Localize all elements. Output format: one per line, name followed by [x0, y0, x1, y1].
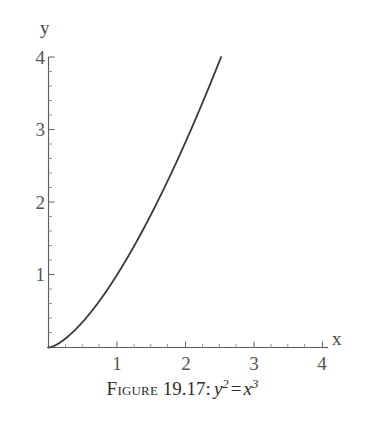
caption-label: Figure: [107, 378, 158, 399]
x-tick-label-4: 4: [313, 354, 331, 373]
equation-rhs-exponent: 3: [252, 376, 258, 391]
y-axis-label: y: [40, 18, 50, 37]
figure-caption: Figure 19.17:y2=x3: [0, 378, 365, 400]
caption-equation: y2=x3: [211, 378, 259, 399]
caption-number: 19.17:: [163, 378, 211, 399]
x-tick-label-2: 2: [177, 354, 195, 373]
y-tick-label-3: 3: [27, 120, 45, 139]
curve-y-squared-equals-x-cubed: [49, 57, 222, 348]
y-axis-major-ticks: [49, 57, 55, 275]
equation-rhs-base: x: [243, 378, 251, 399]
equation-lhs-exponent: 2: [222, 376, 228, 391]
x-tick-label-3: 3: [245, 354, 263, 373]
y-tick-label-1: 1: [27, 265, 45, 284]
y-tick-label-4: 4: [27, 48, 45, 67]
x-tick-label-1: 1: [108, 354, 126, 373]
x-axis-label: x: [332, 329, 342, 348]
y-tick-label-2: 2: [27, 193, 45, 212]
equation-operator: =: [229, 378, 244, 399]
figure-container: 4 3 2 1 1 2 3 4 y x Figure 19.17:y2=x3: [0, 0, 365, 422]
plot-area: [0, 0, 365, 378]
